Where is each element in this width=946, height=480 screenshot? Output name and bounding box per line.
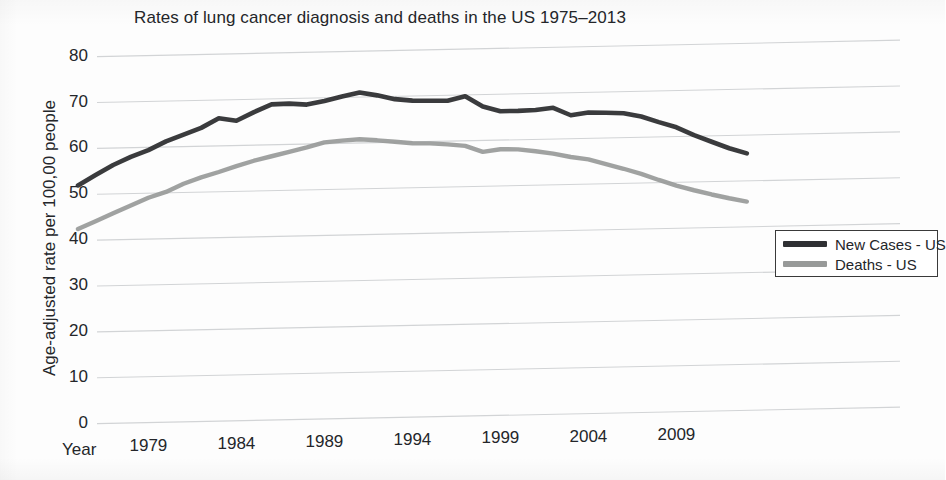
gridline bbox=[97, 40, 900, 56]
y-tick-label: 0 bbox=[42, 413, 88, 433]
y-tick-label: 20 bbox=[42, 321, 88, 341]
gridline bbox=[97, 407, 900, 423]
x-tick-label: 1999 bbox=[465, 428, 535, 448]
x-tick-label: 1989 bbox=[289, 432, 359, 452]
x-tick-label: 1979 bbox=[113, 436, 183, 456]
y-tick-label: 80 bbox=[42, 46, 88, 66]
gridline bbox=[97, 361, 900, 377]
x-tick-label: 2009 bbox=[641, 425, 711, 445]
legend-label-new-cases: New Cases - US bbox=[835, 236, 946, 253]
y-tick-label: 30 bbox=[42, 275, 88, 295]
x-axis-title: Year bbox=[62, 440, 96, 460]
y-tick-label: 50 bbox=[42, 183, 88, 203]
gridline bbox=[97, 86, 900, 102]
gridline bbox=[97, 132, 900, 148]
series-line-deaths bbox=[78, 139, 747, 229]
legend-label-deaths: Deaths - US bbox=[835, 256, 917, 273]
legend-swatch-new-cases bbox=[783, 241, 827, 247]
x-tick-label: 1994 bbox=[377, 430, 447, 450]
y-tick-label: 70 bbox=[42, 92, 88, 112]
data-series-layer bbox=[78, 93, 747, 230]
y-tick-label: 40 bbox=[42, 229, 88, 249]
y-tick-label: 10 bbox=[42, 367, 88, 387]
series-line-new-cases bbox=[78, 93, 747, 186]
gridline bbox=[97, 178, 900, 194]
gridline bbox=[97, 315, 900, 331]
legend-item-deaths: Deaths - US bbox=[783, 254, 917, 274]
x-tick-label: 1984 bbox=[201, 434, 271, 454]
legend-item-new-cases: New Cases - US bbox=[783, 234, 946, 254]
y-tick-label: 60 bbox=[42, 137, 88, 157]
chart-legend: New Cases - US Deaths - US bbox=[775, 230, 938, 277]
x-tick-label: 2004 bbox=[553, 427, 623, 447]
legend-swatch-deaths bbox=[783, 261, 827, 267]
